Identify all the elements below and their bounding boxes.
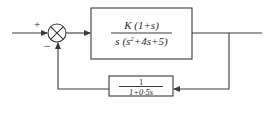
plus-sign: + [34,18,40,30]
forward-denominator: s (s2+4s+5) [115,35,168,48]
feedback-numerator: 1 [139,77,143,87]
block-diagram: + − K (1+s) s (s2+4s+5) 1 1+0·5s [0,0,273,116]
forward-numerator: K (1+s) [123,19,159,32]
minus-sign: − [44,39,51,53]
feedback-denominator: 1+0·5s [129,87,154,97]
